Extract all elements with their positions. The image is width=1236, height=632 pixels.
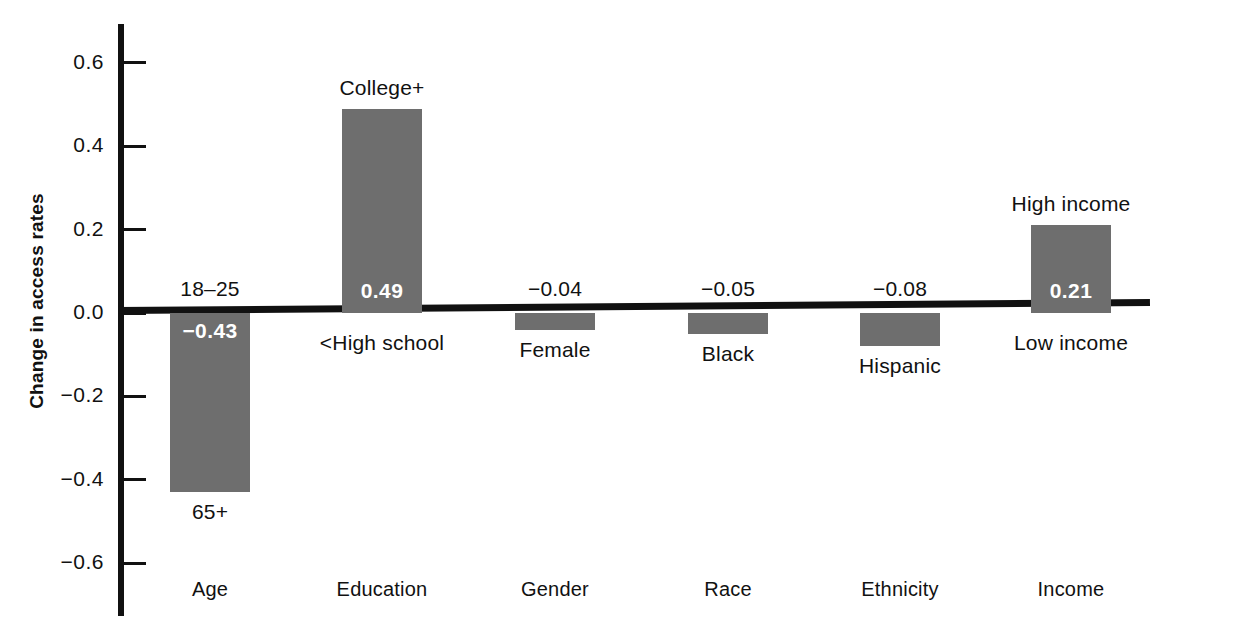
bar-gender[interactable] (515, 313, 595, 330)
bar-value-label: 0.21 (1031, 279, 1111, 303)
y-axis-tick (124, 562, 146, 565)
y-axis-tick-label: −0.2 (30, 383, 104, 407)
bar-value-label: −0.08 (820, 277, 980, 301)
category-label-race: Race (648, 578, 808, 601)
bar-top-label: 18–25 (110, 277, 310, 301)
bar-top-label: College+ (282, 76, 482, 100)
bar-value-label: 0.49 (342, 279, 422, 303)
y-axis-tick (124, 228, 146, 231)
category-label-education: Education (302, 578, 462, 601)
bar-bottom-label: 65+ (100, 500, 320, 524)
bar-bottom-label: Low income (961, 331, 1181, 355)
y-axis-tick (124, 395, 146, 398)
bar-race[interactable] (688, 313, 768, 334)
bar-chart: Change in access rates 0.60.40.20.0−0.2−… (0, 0, 1236, 632)
y-axis-tick-label: −0.4 (30, 467, 104, 491)
category-label-ethnicity: Ethnicity (820, 578, 980, 601)
y-axis-tick-label: 0.6 (30, 50, 104, 74)
bar-value-label: −0.05 (648, 277, 808, 301)
y-axis-tick-label: 0.4 (30, 133, 104, 157)
bar-top-label: High income (971, 192, 1171, 216)
bar-value-label: −0.43 (170, 319, 250, 343)
y-axis-tick-label: 0.2 (30, 217, 104, 241)
zero-baseline (118, 299, 1150, 314)
bar-ethnicity[interactable] (860, 313, 940, 346)
y-axis-spine (118, 24, 124, 616)
y-axis-tick (124, 478, 146, 481)
category-label-gender: Gender (475, 578, 635, 601)
y-axis-tick-label: −0.6 (30, 550, 104, 574)
bar-value-label: −0.04 (475, 277, 635, 301)
y-axis-tick (124, 61, 146, 64)
category-label-income: Income (991, 578, 1151, 601)
bar-bottom-label: Hispanic (790, 354, 1010, 378)
category-label-age: Age (130, 578, 290, 601)
y-axis-tick-label: 0.0 (30, 300, 104, 324)
y-axis-tick (124, 145, 146, 148)
